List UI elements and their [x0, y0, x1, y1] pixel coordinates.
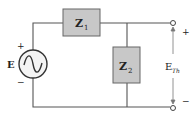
output-minus: −: [182, 96, 190, 106]
wire-bottom: [33, 78, 170, 107]
output-subscript: Th: [172, 67, 180, 74]
ac-source: E + −: [7, 41, 47, 87]
impedance-z1: Z 1: [63, 9, 100, 36]
z1-label: Z: [75, 17, 83, 30]
terminal-bottom: [171, 106, 176, 111]
circuit-diagram: Z 1 Z 2 E + − E Th + −: [0, 0, 192, 124]
wires: [33, 23, 170, 107]
terminal-top: [171, 21, 176, 26]
output-plus: +: [182, 27, 190, 37]
impedance-z2: Z 2: [113, 47, 140, 83]
z2-subscript: 2: [128, 67, 132, 75]
z2-label: Z: [119, 60, 127, 73]
source-minus: −: [17, 77, 25, 87]
source-label: E: [7, 59, 15, 70]
wire-source-to-z1: [33, 23, 63, 50]
source-plus: +: [17, 41, 25, 51]
z1-subscript: 1: [84, 24, 88, 32]
